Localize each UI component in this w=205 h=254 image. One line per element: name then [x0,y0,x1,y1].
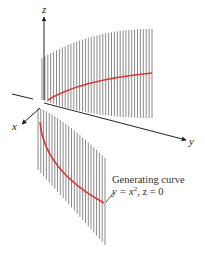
lower-ruling-lines [38,108,105,245]
parabolic-cylinder-figure: z x y Generating curve y = x2, z = 0 [0,0,205,254]
negative-x-axis-stub [12,94,33,99]
annotation-title: Generating curve [112,174,185,185]
x-axis [22,108,40,124]
equation-lhs: y = x [111,186,134,197]
upper-ruling-lines [42,29,152,118]
x-axis-label: x [11,120,17,132]
y-axis-label: y [188,135,194,147]
z-axis-label: z [41,3,47,15]
y-axis [44,103,186,140]
equation-rest: , z = 0 [137,186,163,197]
annotation-equation: y = x2, z = 0 [111,185,164,197]
